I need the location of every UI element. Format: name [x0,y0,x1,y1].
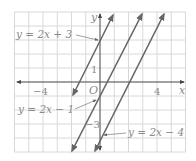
tick-x-neg4: −4 [33,86,48,97]
y-axis-label: y [90,11,98,24]
label-2x-plus-3: y = 2x + 3 [15,28,72,40]
label-2x-minus-4: y = 2x − 4 [127,126,184,138]
pointer-2x-minus-4 [104,133,126,135]
origin-label: O [89,84,98,97]
pointer-2x-plus-3 [76,35,98,40]
tick-y-neg3: −3 [85,119,100,130]
x-axis-label: x [179,84,186,97]
tick-x-4: 4 [154,86,160,97]
coordinate-graph: y x O −4 4 1 −3 y = 2x + 3 y = 2x − 1 y … [0,0,196,161]
tick-y-1: 1 [91,64,97,75]
label-2x-minus-1: y = 2x − 1 [17,103,74,115]
